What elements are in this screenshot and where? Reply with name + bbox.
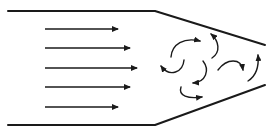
curved-arrow-icon	[218, 61, 243, 70]
top-duct-wall	[8, 11, 265, 45]
curved-arrow-icon	[180, 87, 202, 98]
bottom-duct-wall	[8, 85, 265, 125]
curved-arrow-icon	[193, 61, 206, 83]
laminar-flow-arrows	[45, 29, 137, 107]
curved-arrow-icon	[211, 34, 218, 58]
flow-diagram	[0, 0, 279, 132]
turbulent-eddy-arrows	[161, 34, 258, 98]
converging-duct-flow-svg	[0, 0, 279, 132]
curved-arrow-icon	[248, 55, 258, 81]
curved-arrow-icon	[171, 40, 200, 57]
curved-arrow-icon	[161, 60, 184, 73]
